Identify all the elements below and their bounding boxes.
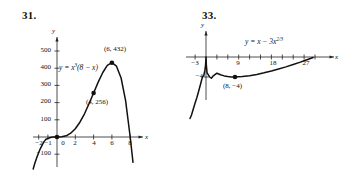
y-axis-label-31: y bbox=[52, 28, 55, 35]
point-label-8-neg4: (8, −4) bbox=[223, 83, 242, 90]
x-tick-label-27: 27 bbox=[300, 60, 312, 67]
x-tick-label-9: 9 bbox=[233, 60, 243, 67]
y-axis-label-33: y bbox=[201, 22, 204, 29]
x-axis-label-33: x bbox=[335, 54, 338, 61]
y-tick-label-400: 400 bbox=[31, 64, 51, 71]
x-tick-label-6: 6 bbox=[107, 140, 117, 147]
x-axis-arrowhead bbox=[139, 135, 144, 138]
y-tick-label-100: 100 bbox=[31, 116, 51, 123]
point-marker-8-neg4 bbox=[233, 75, 238, 80]
plot-31 bbox=[0, 0, 174, 171]
x-tick-label-4: 4 bbox=[89, 140, 99, 147]
equation-rhs-31: (8 − x) bbox=[77, 63, 98, 72]
y-tick-label-300: 300 bbox=[31, 81, 51, 88]
x-tick-label-8: 8 bbox=[125, 140, 135, 147]
point-label-6-432: (6, 432) bbox=[104, 46, 126, 53]
x-axis-arrowhead bbox=[330, 55, 335, 58]
point-marker-4-256 bbox=[91, 91, 96, 96]
figure-33: 33. bbox=[174, 0, 348, 171]
equation-exponent-33: 2/3 bbox=[276, 36, 283, 42]
y-tick-label-200: 200 bbox=[31, 98, 51, 105]
point-label-4-256: (4, 256) bbox=[86, 99, 108, 106]
equation-label-33: y = x − 3x2/3 bbox=[245, 38, 283, 46]
y-tick-label-neg4: −4 bbox=[191, 73, 203, 80]
point-marker-6-432 bbox=[110, 60, 115, 65]
y-tick-label-500: 500 bbox=[31, 47, 51, 54]
x-tick-label-2: 2 bbox=[70, 140, 80, 147]
equation-lhs-33: y = x − 3x bbox=[245, 37, 276, 46]
equation-lhs-31: y = x bbox=[59, 63, 74, 72]
point-marker-origin-31 bbox=[55, 135, 60, 140]
y-axis-arrowhead bbox=[55, 37, 58, 42]
x-tick-label-18: 18 bbox=[267, 60, 279, 67]
x-axis-label-31: x bbox=[145, 134, 148, 141]
y-tick-label-neg100: −100 bbox=[29, 150, 51, 157]
y-axis-arrowhead bbox=[204, 31, 207, 36]
plot-31-svg bbox=[0, 0, 174, 171]
x-tick-label-neg3: −3 bbox=[189, 60, 201, 67]
x-tick-label-neg1: −1 bbox=[42, 140, 54, 147]
equation-label-31: y = x3(8 − x) bbox=[59, 64, 98, 72]
figure-31: 31. bbox=[0, 0, 174, 171]
curve-33 bbox=[190, 57, 313, 119]
x-tick-label-0: 0 bbox=[58, 140, 68, 147]
